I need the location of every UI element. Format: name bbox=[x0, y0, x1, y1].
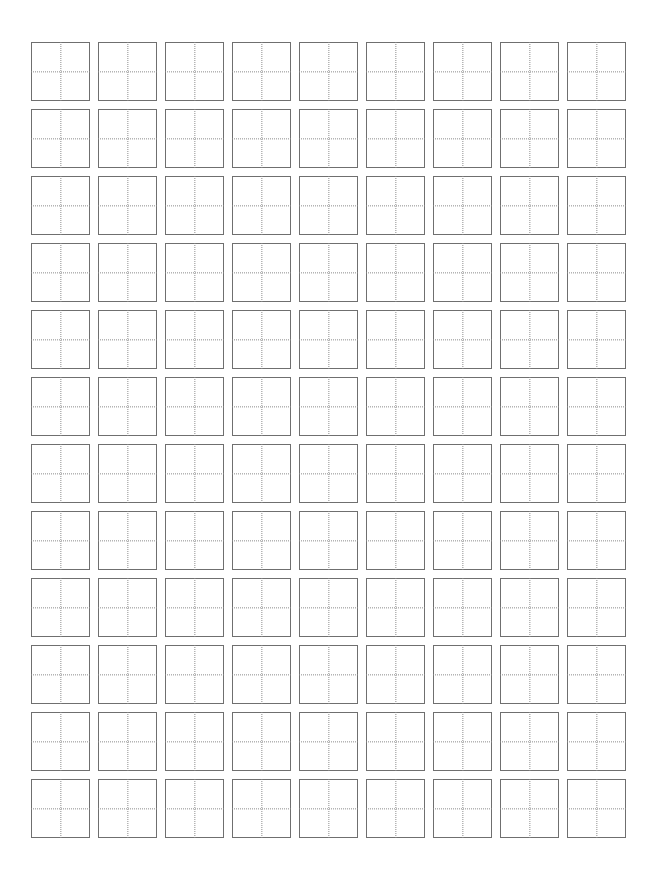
practice-cell[interactable] bbox=[165, 712, 224, 771]
practice-cell[interactable] bbox=[299, 310, 358, 369]
practice-cell[interactable] bbox=[165, 779, 224, 838]
practice-cell[interactable] bbox=[567, 109, 626, 168]
practice-cell[interactable] bbox=[500, 310, 559, 369]
practice-cell[interactable] bbox=[299, 377, 358, 436]
practice-cell[interactable] bbox=[232, 310, 291, 369]
practice-cell[interactable] bbox=[165, 444, 224, 503]
practice-cell[interactable] bbox=[567, 712, 626, 771]
practice-cell[interactable] bbox=[299, 243, 358, 302]
practice-cell[interactable] bbox=[366, 243, 425, 302]
practice-cell[interactable] bbox=[31, 243, 90, 302]
practice-cell[interactable] bbox=[232, 176, 291, 235]
practice-cell[interactable] bbox=[98, 444, 157, 503]
practice-cell[interactable] bbox=[567, 511, 626, 570]
practice-cell[interactable] bbox=[232, 712, 291, 771]
practice-cell[interactable] bbox=[31, 712, 90, 771]
practice-cell[interactable] bbox=[567, 645, 626, 704]
practice-cell[interactable] bbox=[299, 578, 358, 637]
practice-cell[interactable] bbox=[433, 779, 492, 838]
practice-cell[interactable] bbox=[232, 779, 291, 838]
practice-cell[interactable] bbox=[366, 377, 425, 436]
practice-cell[interactable] bbox=[98, 645, 157, 704]
practice-cell[interactable] bbox=[567, 779, 626, 838]
practice-cell[interactable] bbox=[567, 578, 626, 637]
practice-cell[interactable] bbox=[98, 176, 157, 235]
practice-cell[interactable] bbox=[98, 377, 157, 436]
practice-cell[interactable] bbox=[567, 444, 626, 503]
practice-cell[interactable] bbox=[433, 176, 492, 235]
practice-cell[interactable] bbox=[232, 578, 291, 637]
practice-cell[interactable] bbox=[567, 42, 626, 101]
practice-cell[interactable] bbox=[98, 578, 157, 637]
practice-cell[interactable] bbox=[366, 779, 425, 838]
practice-cell[interactable] bbox=[232, 42, 291, 101]
practice-cell[interactable] bbox=[98, 109, 157, 168]
practice-cell[interactable] bbox=[232, 444, 291, 503]
practice-cell[interactable] bbox=[299, 109, 358, 168]
practice-cell[interactable] bbox=[232, 243, 291, 302]
practice-cell[interactable] bbox=[433, 243, 492, 302]
practice-cell[interactable] bbox=[366, 109, 425, 168]
practice-cell[interactable] bbox=[165, 310, 224, 369]
practice-cell[interactable] bbox=[366, 176, 425, 235]
practice-cell[interactable] bbox=[567, 176, 626, 235]
practice-cell[interactable] bbox=[433, 511, 492, 570]
practice-cell[interactable] bbox=[98, 243, 157, 302]
practice-cell[interactable] bbox=[366, 511, 425, 570]
practice-cell[interactable] bbox=[299, 779, 358, 838]
practice-cell[interactable] bbox=[232, 645, 291, 704]
practice-cell[interactable] bbox=[500, 779, 559, 838]
practice-cell[interactable] bbox=[165, 243, 224, 302]
practice-cell[interactable] bbox=[165, 176, 224, 235]
practice-cell[interactable] bbox=[31, 511, 90, 570]
practice-cell[interactable] bbox=[299, 645, 358, 704]
practice-cell[interactable] bbox=[500, 243, 559, 302]
practice-cell[interactable] bbox=[366, 444, 425, 503]
practice-cell[interactable] bbox=[433, 109, 492, 168]
practice-cell[interactable] bbox=[567, 377, 626, 436]
practice-cell[interactable] bbox=[31, 109, 90, 168]
practice-cell[interactable] bbox=[232, 377, 291, 436]
practice-cell[interactable] bbox=[433, 712, 492, 771]
practice-cell[interactable] bbox=[500, 176, 559, 235]
practice-cell[interactable] bbox=[299, 42, 358, 101]
practice-cell[interactable] bbox=[500, 444, 559, 503]
practice-cell[interactable] bbox=[165, 109, 224, 168]
practice-cell[interactable] bbox=[165, 377, 224, 436]
practice-cell[interactable] bbox=[31, 377, 90, 436]
practice-cell[interactable] bbox=[98, 779, 157, 838]
practice-cell[interactable] bbox=[433, 578, 492, 637]
practice-cell[interactable] bbox=[567, 243, 626, 302]
practice-cell[interactable] bbox=[299, 176, 358, 235]
practice-cell[interactable] bbox=[433, 42, 492, 101]
practice-cell[interactable] bbox=[299, 712, 358, 771]
practice-cell[interactable] bbox=[31, 42, 90, 101]
practice-cell[interactable] bbox=[433, 645, 492, 704]
practice-cell[interactable] bbox=[98, 42, 157, 101]
practice-cell[interactable] bbox=[165, 42, 224, 101]
practice-cell[interactable] bbox=[31, 310, 90, 369]
practice-cell[interactable] bbox=[500, 645, 559, 704]
practice-cell[interactable] bbox=[31, 645, 90, 704]
practice-cell[interactable] bbox=[366, 42, 425, 101]
practice-cell[interactable] bbox=[433, 310, 492, 369]
practice-cell[interactable] bbox=[366, 712, 425, 771]
practice-cell[interactable] bbox=[500, 42, 559, 101]
practice-cell[interactable] bbox=[31, 578, 90, 637]
practice-cell[interactable] bbox=[31, 176, 90, 235]
practice-cell[interactable] bbox=[98, 712, 157, 771]
practice-cell[interactable] bbox=[165, 645, 224, 704]
practice-cell[interactable] bbox=[299, 444, 358, 503]
practice-cell[interactable] bbox=[500, 109, 559, 168]
practice-cell[interactable] bbox=[500, 377, 559, 436]
practice-cell[interactable] bbox=[98, 511, 157, 570]
practice-cell[interactable] bbox=[165, 578, 224, 637]
practice-cell[interactable] bbox=[165, 511, 224, 570]
practice-cell[interactable] bbox=[31, 779, 90, 838]
practice-cell[interactable] bbox=[433, 444, 492, 503]
practice-cell[interactable] bbox=[232, 109, 291, 168]
practice-cell[interactable] bbox=[232, 511, 291, 570]
practice-cell[interactable] bbox=[366, 578, 425, 637]
practice-cell[interactable] bbox=[31, 444, 90, 503]
practice-cell[interactable] bbox=[567, 310, 626, 369]
